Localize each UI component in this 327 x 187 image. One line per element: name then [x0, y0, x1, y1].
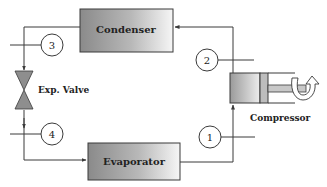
expansion-valve-label: Exp. Valve — [38, 85, 89, 95]
condenser: Condenser — [80, 9, 173, 52]
compressor-piston — [260, 73, 268, 103]
expansion-valve: Exp. Valve — [15, 71, 89, 109]
evaporator: Evaporator — [88, 143, 180, 180]
svg-text:3: 3 — [49, 40, 55, 51]
valve-bottom-triangle — [15, 90, 33, 109]
svg-text:4: 4 — [49, 129, 55, 140]
state-1: 1 — [199, 126, 221, 148]
evaporator-label: Evaporator — [103, 156, 166, 167]
refrigeration-cycle-diagram: Condenser Evaporator Exp. Valve Compress… — [0, 0, 327, 187]
state-3: 3 — [41, 34, 63, 56]
compressor-rod — [268, 85, 306, 92]
svg-text:2: 2 — [204, 55, 210, 66]
compressor-label: Compressor — [250, 113, 311, 123]
state-2: 2 — [196, 49, 218, 71]
compressor: Compressor — [230, 73, 319, 123]
condenser-label: Condenser — [96, 24, 157, 35]
compressor-cylinder — [230, 73, 260, 103]
svg-text:1: 1 — [207, 132, 213, 143]
state-4: 4 — [41, 123, 63, 145]
valve-top-triangle — [15, 71, 33, 90]
